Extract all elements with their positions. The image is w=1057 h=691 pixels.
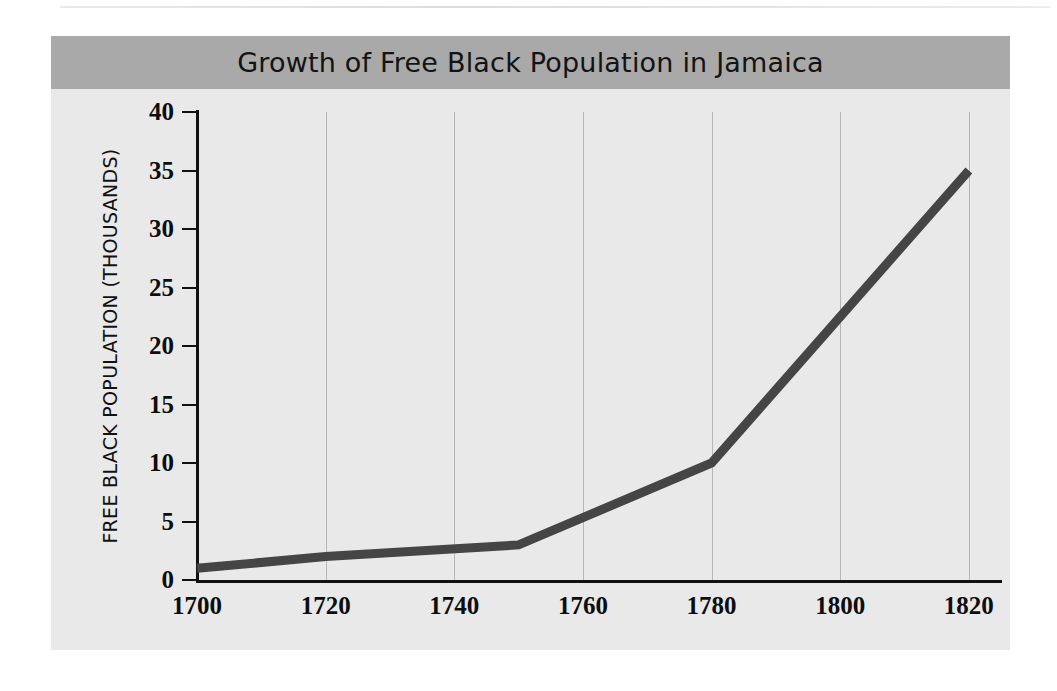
- data-series-line: [51, 36, 1010, 650]
- y-tick-label: 25: [149, 274, 174, 302]
- x-tick-label: 1700: [172, 592, 222, 620]
- page-top-rule: [60, 6, 1050, 8]
- x-tick-label: 1800: [815, 592, 865, 620]
- y-tick-label: 0: [162, 566, 175, 594]
- x-tick-label: 1720: [301, 592, 351, 620]
- y-tick-mark: [182, 228, 198, 230]
- chart-figure: Growth of Free Black Population in Jamai…: [51, 36, 1010, 650]
- x-tick-label: 1760: [558, 592, 608, 620]
- y-tick-label: 20: [149, 332, 174, 360]
- y-tick-mark: [182, 170, 198, 172]
- y-tick-label: 35: [149, 157, 174, 185]
- y-tick-label: 40: [149, 98, 174, 126]
- x-tick-label: 1820: [944, 592, 994, 620]
- y-tick-mark: [182, 579, 198, 581]
- y-tick-mark: [182, 404, 198, 406]
- x-tick-label: 1780: [687, 592, 737, 620]
- y-tick-mark: [182, 345, 198, 347]
- y-tick-label: 30: [149, 215, 174, 243]
- y-tick-label: 10: [149, 449, 174, 477]
- x-tick-label: 1740: [429, 592, 479, 620]
- y-tick-label: 5: [162, 508, 175, 536]
- y-tick-mark: [182, 111, 198, 113]
- y-tick-label: 15: [149, 391, 174, 419]
- y-tick-mark: [182, 287, 198, 289]
- y-tick-mark: [182, 521, 198, 523]
- y-tick-mark: [182, 462, 198, 464]
